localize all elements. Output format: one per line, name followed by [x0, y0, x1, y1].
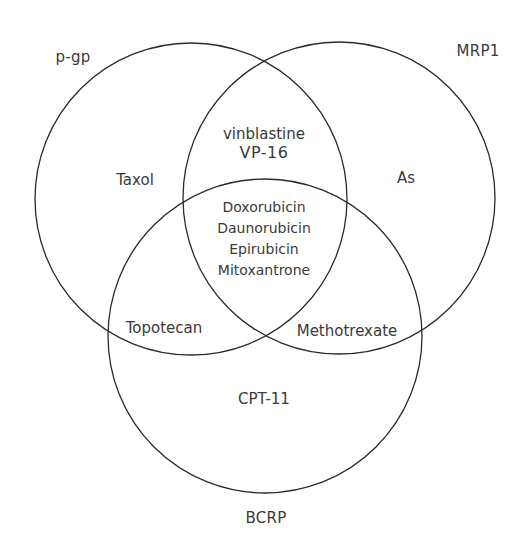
region-pgp-bcrp: Topotecan: [126, 320, 203, 338]
set-label-bcrp: BCRP: [245, 510, 286, 528]
drug-vinblastine: vinblastine: [223, 126, 305, 144]
region-pgp-only: Taxol: [116, 172, 154, 190]
set-label-pgp: p-gp: [55, 49, 90, 67]
drug-mitoxantrone: Mitoxantrone: [217, 260, 311, 281]
region-all-three: Doxorubicin Daunorubicin Epirubicin Mito…: [217, 197, 311, 281]
set-label-mrp1: MRP1: [456, 43, 499, 61]
region-bcrp-only: CPT-11: [238, 391, 290, 409]
region-mrp1-only: As: [397, 170, 415, 188]
drug-vp16: VP-16: [223, 143, 305, 162]
drug-epirubicin: Epirubicin: [217, 239, 311, 260]
region-mrp1-bcrp: Methotrexate: [297, 323, 398, 341]
drug-doxorubicin: Doxorubicin: [217, 197, 311, 218]
drug-daunorubicin: Daunorubicin: [217, 218, 311, 239]
region-pgp-mrp1: vinblastine VP-16: [223, 126, 305, 163]
